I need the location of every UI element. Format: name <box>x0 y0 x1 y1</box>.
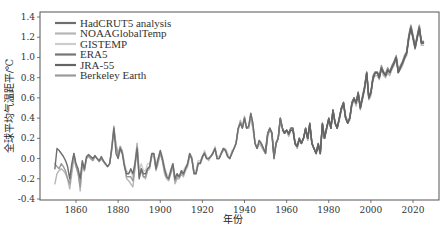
y-axis-title: 全球平均气温距平/℃ <box>3 59 15 154</box>
series-line-era5 <box>266 27 424 156</box>
legend-item: Berkeley Earth <box>55 69 147 81</box>
x-tick-label: 2020 <box>402 205 425 215</box>
legend-label: Berkeley Earth <box>80 69 147 81</box>
y-tick-label: 0.4 <box>21 113 36 123</box>
series-line-noaaglobaltemp <box>55 29 424 191</box>
x-tick-label: 1860 <box>65 205 88 215</box>
x-axis-title: 年份 <box>223 213 243 225</box>
x-tick-label: 1920 <box>191 205 214 215</box>
y-tick-label: 1.4 <box>21 12 36 22</box>
x-tick-label: 1960 <box>275 205 298 215</box>
series-line-gistemp <box>118 25 423 177</box>
y-tick-label: 1.0 <box>21 52 36 62</box>
x-tick-label: 1980 <box>317 205 340 215</box>
series-lines <box>55 25 424 191</box>
y-axis: -0.4-0.20.00.20.40.60.81.01.21.4 <box>18 12 40 204</box>
x-tick-label: 1900 <box>149 205 172 215</box>
y-tick-label: 0.2 <box>21 133 35 143</box>
y-tick-label: 0.0 <box>21 154 36 164</box>
y-tick-label: 1.2 <box>21 32 35 42</box>
x-axis: 186018801900192019401960198020002020 <box>65 200 425 215</box>
y-tick-label: -0.4 <box>18 194 36 204</box>
temperature-anomaly-chart: -0.4-0.20.00.20.40.60.81.01.21.4 1860188… <box>0 0 445 231</box>
legend: HadCRUT5 analysisNOAAGlobalTempGISTEMPER… <box>55 17 171 82</box>
series-line-hadcrut5-analysis <box>55 27 424 179</box>
y-tick-label: 0.6 <box>21 93 36 103</box>
y-tick-label: -0.2 <box>18 174 35 184</box>
y-tick-label: 0.8 <box>21 73 36 83</box>
x-tick-label: 1880 <box>107 205 130 215</box>
x-tick-label: 2000 <box>359 205 382 215</box>
